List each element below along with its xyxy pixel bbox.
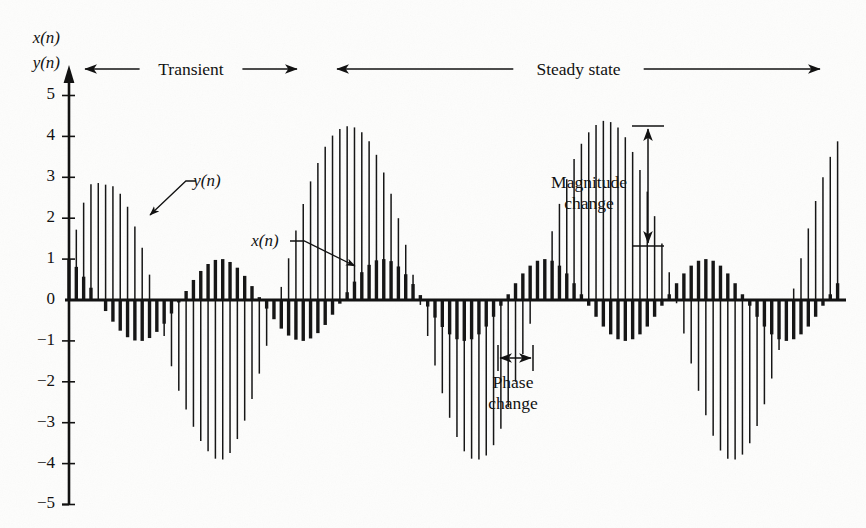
magnitude-change-label-line1: Magnitude [551, 172, 627, 192]
phase-change-label-line2: change [488, 393, 538, 413]
y-axis-tick-label: −5 [37, 493, 55, 512]
y-series-label-leader [150, 181, 196, 215]
region-annotations: TransientSteady state [85, 59, 820, 79]
y-axis-tick-label: 3 [47, 166, 56, 185]
annotation-layer: x(n) y(n) TransientSteady state y(n)x(n)… [0, 0, 866, 528]
phase-change-annotation: Phase change [488, 345, 538, 413]
magnitude-change-annotation: Magnitude change [551, 126, 664, 246]
y-axis-tick-label: 5 [47, 84, 56, 103]
x-series-label: x(n) [250, 231, 279, 250]
y-axis-tick-label: −2 [37, 371, 55, 390]
phase-change-label-line1: Phase [493, 372, 534, 392]
x-series-label-leader [290, 241, 355, 266]
y-axis-tick-label: −1 [37, 330, 55, 349]
y-axis-tick-label: −3 [37, 412, 55, 431]
y-axis-tick-label: −4 [37, 453, 56, 472]
y-axis-tick-label: 1 [47, 248, 56, 267]
magnitude-change-label-line2: change [564, 193, 614, 213]
y-axis-tick-label: 2 [47, 207, 56, 226]
y-axis-tick-label: 4 [47, 125, 56, 144]
series-labels: y(n)x(n) [150, 171, 355, 266]
y-axis-tick-label: 0 [47, 289, 56, 308]
y-axis-label-x-of-n: x(n) [32, 28, 61, 47]
region-label-transient: Transient [158, 59, 224, 79]
region-label-steady-state: Steady state [536, 59, 620, 79]
y-axis-label-y-of-n: y(n) [31, 53, 61, 72]
figure-canvas: x(n) y(n) TransientSteady state y(n)x(n)… [0, 0, 866, 528]
